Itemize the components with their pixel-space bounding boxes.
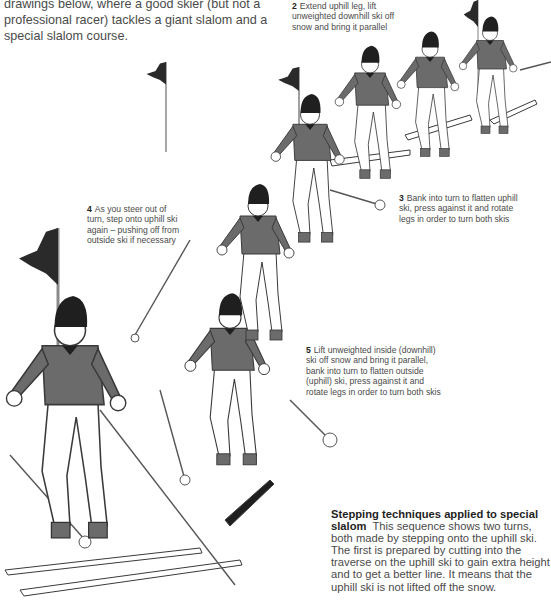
caption-step-4: 4As you steer out of turn, step onto uph… xyxy=(87,204,182,246)
sidebar-box: Stepping techniques applied to special s… xyxy=(331,508,551,593)
caption-step-5: 5Lift unweighted inside (downhill) ski o… xyxy=(306,345,441,397)
slalom-flag-icon xyxy=(147,62,167,152)
skier-figure-3 xyxy=(271,94,344,242)
skier-figure-large xyxy=(6,296,125,538)
caption-step-3: 3Bank into turn to flatten uphill ski, p… xyxy=(399,193,529,224)
caption-step-2: 2Extend uphill leg, lift unweighted down… xyxy=(292,1,412,32)
